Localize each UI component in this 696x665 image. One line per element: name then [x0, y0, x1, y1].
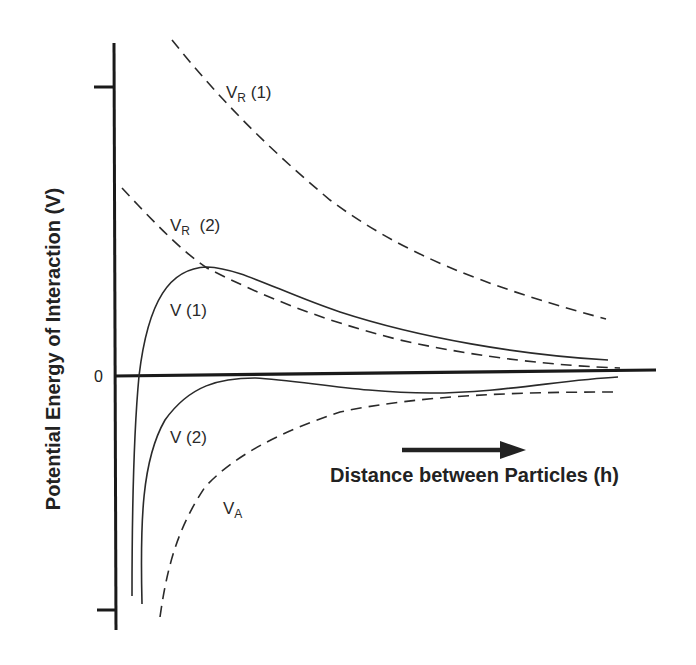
vr1-curve	[172, 40, 606, 319]
y-axis-title: Potential Energy of Interaction (V)	[42, 188, 65, 510]
zero-axis-line	[114, 370, 656, 376]
vr2-curve	[122, 188, 620, 368]
vr1-label: VR (1)	[226, 84, 272, 104]
y-axis	[114, 43, 116, 630]
vr2-label: VR (2)	[170, 217, 220, 237]
chart-canvas	[0, 0, 696, 665]
v1-label: V (1)	[170, 302, 207, 319]
va-label: VA	[223, 500, 242, 520]
v2-curve	[141, 377, 618, 604]
y-zero-tick-label: 0	[94, 368, 103, 386]
v2-label: V (2)	[170, 429, 207, 446]
distance-arrow-head-icon	[500, 441, 526, 459]
x-axis-title: Distance between Particles (h)	[330, 464, 619, 487]
